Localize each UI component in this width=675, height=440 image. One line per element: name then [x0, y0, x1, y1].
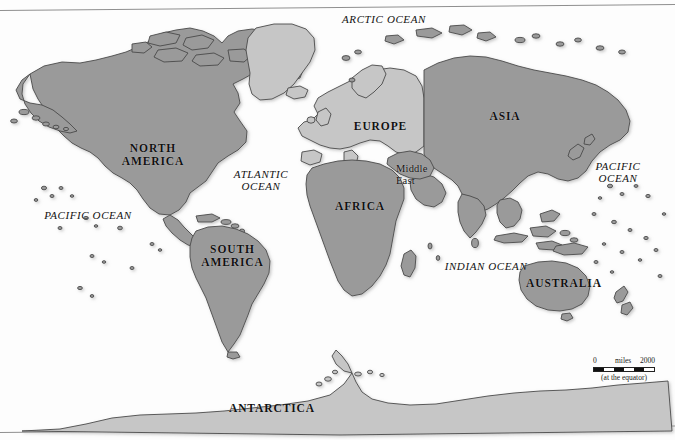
world-map-figure: NORTH AMERICA SOUTH AMERICA AFRICA EUROP…	[0, 0, 675, 440]
landmass-sri-lanka	[472, 238, 479, 247]
landmass-africa	[306, 160, 404, 296]
label-middle-east: Middle East	[396, 163, 428, 187]
label-pacific-ocean-west: PACIFIC OCEAN	[33, 209, 143, 221]
landmass-new-zealand	[614, 286, 633, 315]
label-australia: AUSTRALIA	[519, 277, 609, 290]
landmass-madagascar	[401, 250, 416, 277]
label-north-america: NORTH AMERICA	[108, 142, 198, 168]
scale-labels: 0 miles 2000	[593, 356, 655, 367]
landmass-iberia	[301, 150, 322, 165]
landmass-asia	[424, 56, 630, 212]
label-south-america: SOUTH AMERICA	[190, 243, 275, 269]
map-scale-bar: 0 miles 2000 (at the equator)	[593, 356, 655, 382]
scale-rule-graphic	[593, 367, 655, 372]
landmass-antarctica	[22, 373, 672, 435]
label-antarctica: ANTARCTICA	[217, 402, 327, 415]
scale-units-label: miles	[615, 356, 631, 365]
label-atlantic-ocean: ATLANTIC OCEAN	[222, 168, 300, 193]
label-europe: EUROPE	[338, 120, 423, 133]
scale-max-label: 2000	[640, 356, 655, 365]
landmass-southeast-asia	[497, 198, 522, 228]
label-indian-ocean: INDIAN OCEAN	[432, 260, 540, 272]
label-africa: AFRICA	[320, 200, 400, 213]
scale-note-label: (at the equator)	[593, 373, 655, 382]
landmass-tasmania	[561, 313, 573, 321]
landmass-iceland	[286, 86, 308, 99]
label-asia: ASIA	[470, 110, 540, 123]
label-arctic-ocean: ARCTIC OCEAN	[329, 13, 439, 25]
scale-min-label: 0	[593, 356, 597, 365]
label-pacific-ocean-east: PACIFIC OCEAN	[586, 160, 650, 185]
landmass-tierra-del-fuego	[227, 352, 240, 359]
islands-arctic-scatter	[342, 25, 625, 60]
